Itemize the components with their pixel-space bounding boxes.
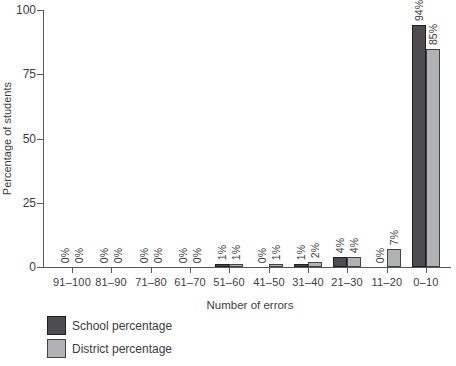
x-tick	[229, 268, 230, 273]
bar-district	[269, 264, 283, 267]
bar-value-label: 0%	[256, 248, 268, 263]
bar-school	[412, 25, 426, 267]
x-tick	[151, 268, 152, 273]
x-tick	[269, 268, 270, 273]
bar-value-label: 0%	[112, 248, 124, 263]
y-tick	[37, 267, 43, 268]
x-tick-label: 0–10	[402, 276, 450, 288]
legend-label-district: District percentage	[72, 342, 172, 356]
bar-value-label: 1%	[216, 245, 228, 260]
legend-swatch-school	[47, 316, 66, 335]
bar-value-label: 0%	[152, 248, 164, 263]
legend-label-school: School percentage	[72, 319, 172, 333]
x-axis-title: Number of errors	[150, 299, 350, 311]
x-tick	[111, 268, 112, 273]
bar-district	[426, 49, 440, 267]
bar-school	[294, 264, 308, 267]
y-axis-line	[43, 10, 44, 268]
bar-value-label: 0%	[374, 248, 386, 263]
bar-value-label: 0%	[138, 248, 150, 263]
bar-value-label: 7%	[388, 230, 400, 245]
y-tick-label: 25	[0, 196, 36, 210]
bar-value-label: 94%	[413, 0, 425, 21]
y-tick-label: 75	[0, 67, 36, 81]
bar-value-label: 0%	[73, 248, 85, 263]
bar-value-label: 0%	[59, 248, 71, 263]
x-axis-line	[43, 267, 451, 268]
bar-school	[333, 257, 347, 267]
bar-value-label: 0%	[98, 248, 110, 263]
bar-value-label: 1%	[295, 245, 307, 260]
bar-district	[387, 249, 401, 267]
bar-district	[229, 264, 243, 267]
bar-school	[215, 264, 229, 267]
bar-value-label: 0%	[191, 248, 203, 263]
bar-value-label: 1%	[230, 245, 242, 260]
y-axis-title: Percentage of students	[1, 82, 13, 195]
bar-value-label: 0%	[177, 248, 189, 263]
legend-swatch-district	[47, 339, 66, 358]
x-tick	[72, 268, 73, 273]
bar-value-label: 1%	[270, 245, 282, 260]
bar-value-label: 2%	[309, 243, 321, 258]
x-tick	[347, 268, 348, 273]
x-tick	[426, 268, 427, 273]
y-tick-label: 100	[0, 3, 36, 17]
y-tick	[37, 203, 43, 204]
bar-district	[347, 257, 361, 267]
y-tick	[37, 139, 43, 140]
bar-district	[308, 262, 322, 267]
y-tick	[37, 74, 43, 75]
x-tick	[190, 268, 191, 273]
y-tick	[37, 10, 43, 11]
x-tick	[308, 268, 309, 273]
bar-value-label: 4%	[348, 238, 360, 253]
bar-value-label: 4%	[334, 238, 346, 253]
x-tick	[387, 268, 388, 273]
y-tick-label: 0	[0, 260, 36, 274]
bar-chart: 025507510091–1000%0%81–900%0%71–800%0%61…	[0, 0, 456, 366]
bar-value-label: 85%	[427, 24, 439, 45]
